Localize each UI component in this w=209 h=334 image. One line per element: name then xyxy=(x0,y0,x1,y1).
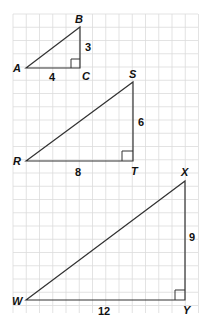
vertex-label-s: S xyxy=(129,68,137,80)
vertex-label-b: B xyxy=(75,13,83,25)
side-label-bc: 3 xyxy=(85,41,91,53)
vertex-label-w: W xyxy=(12,295,24,307)
vertex-label-a: A xyxy=(12,62,21,74)
side-label-ac: 4 xyxy=(49,71,56,83)
vertex-label-t: T xyxy=(131,165,139,177)
triangle-rst: R S T 8 6 xyxy=(13,68,144,178)
side-label-wy: 12 xyxy=(98,305,110,317)
vertex-label-x: X xyxy=(180,166,189,178)
side-label-st: 6 xyxy=(138,116,144,128)
vertex-label-r: R xyxy=(13,155,21,167)
grid xyxy=(13,14,199,313)
right-angle-marker-y xyxy=(175,290,185,300)
side-label-xy: 9 xyxy=(189,231,195,243)
side-label-rt: 8 xyxy=(75,166,81,178)
grid-diagram: A B C 4 3 R S T 8 6 W X Y 12 9 xyxy=(0,0,209,334)
vertex-label-c: C xyxy=(82,70,91,82)
